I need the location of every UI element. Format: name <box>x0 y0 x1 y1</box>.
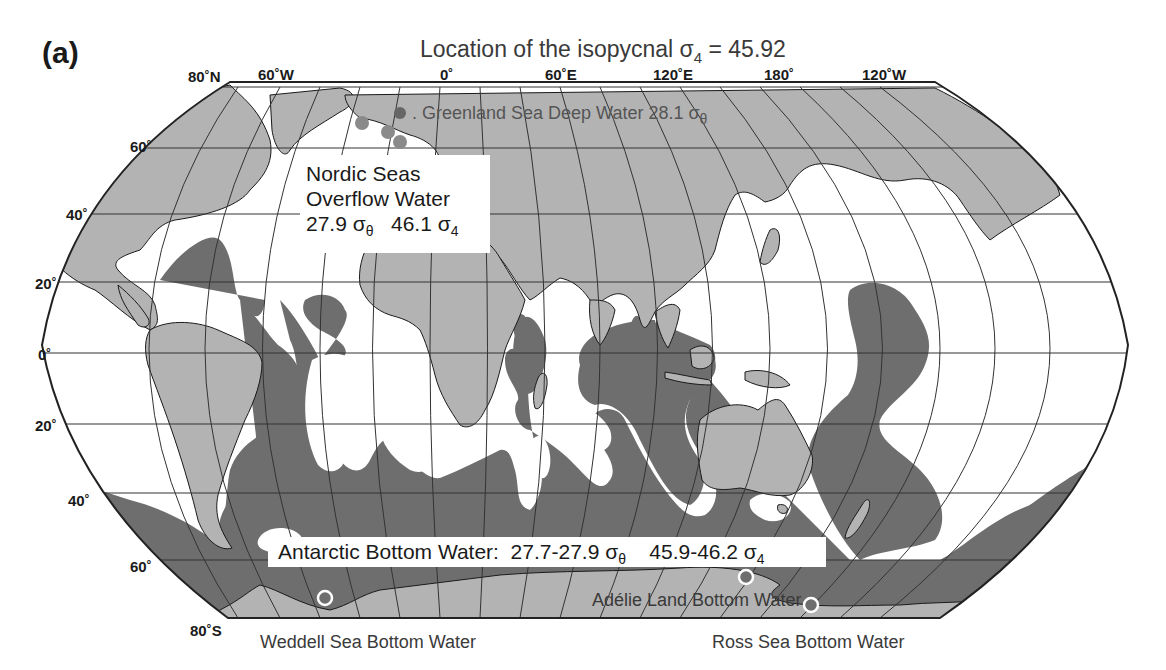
lat-label-20s: 20˚ <box>35 417 57 434</box>
world-map <box>0 0 1166 670</box>
antarctic-bottom-water-box: Antarctic Bottom Water: 27.7-27.9 σθ 45.… <box>268 537 826 567</box>
ross-marker <box>804 598 818 612</box>
adelie-marker <box>739 570 753 584</box>
lat-label-80n: 80˚N <box>188 68 221 85</box>
ross-sea-bottom-water-label: Ross Sea Bottom Water <box>712 632 904 653</box>
nordic-values: 27.9 σθ 46.1 σ4 <box>306 211 490 244</box>
lon-label-60e: 60˚E <box>545 66 577 83</box>
lat-label-20n: 20˚ <box>35 275 57 292</box>
lon-label-120w: 120˚W <box>862 66 906 83</box>
adelie-land-bottom-water-label: Adélie Land Bottom Water <box>592 590 801 611</box>
nordic-marker <box>393 135 407 149</box>
lon-label-0: 0˚ <box>440 66 453 83</box>
lat-label-60s: 60˚ <box>130 558 152 575</box>
nordic-line2: Overflow Water <box>306 186 490 211</box>
greenland-sea-deep-water-label: . Greenland Sea Deep Water 28.1 σθ <box>412 103 707 127</box>
lon-label-120e: 120˚E <box>653 66 693 83</box>
nordic-marker <box>381 125 395 139</box>
nordic-marker <box>394 107 406 119</box>
weddell-marker <box>318 591 332 605</box>
weddell-sea-bottom-water-label: Weddell Sea Bottom Water <box>260 632 476 653</box>
lon-label-180: 180˚ <box>764 66 794 83</box>
lon-label-60w: 60˚W <box>258 66 294 83</box>
lat-label-80s: 80˚S <box>190 622 222 639</box>
lat-label-60n: 60˚ <box>130 138 152 155</box>
nordic-marker <box>355 116 369 130</box>
lat-label-0: 0˚ <box>38 346 51 363</box>
lat-label-40s: 40˚ <box>68 492 90 509</box>
nordic-line1: Nordic Seas <box>306 161 490 186</box>
nordic-seas-overflow-box: Nordic Seas Overflow Water 27.9 σθ 46.1 … <box>300 155 490 253</box>
lat-label-40n: 40˚ <box>66 206 88 223</box>
